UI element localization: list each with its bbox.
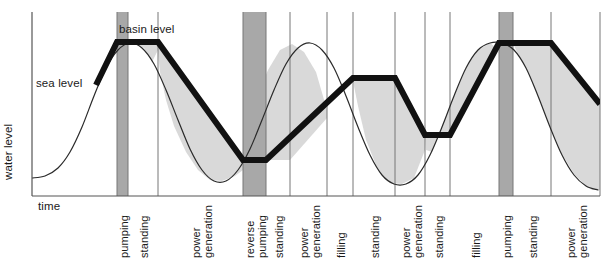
phase-label-4: reversepumping	[245, 215, 268, 258]
phase-label-5: standing	[274, 216, 286, 258]
phase-label-word: filling	[336, 232, 348, 258]
basin-level-annotation: basin level	[119, 23, 174, 35]
phase-band-reverse-pumping	[243, 12, 266, 196]
phase-label-3: powergeneration	[191, 205, 214, 258]
phase-label-word: filling	[471, 232, 483, 258]
phase-label-word: standing	[434, 216, 446, 258]
phase-label-word: pumping	[502, 215, 514, 258]
phase-label-word: pumping	[257, 215, 269, 258]
phase-label-word: reverse	[245, 215, 257, 258]
phase-label-word: generation	[412, 205, 424, 258]
phase-label-word: standing	[139, 216, 151, 258]
phase-label-8: standing	[370, 216, 382, 258]
phase-label-10: standing	[434, 216, 446, 258]
phase-label-word: standing	[528, 216, 540, 258]
tidal-power-plant-operation-diagram: water level time sea level basin level p…	[0, 0, 616, 276]
sea-level-annotation: sea level	[36, 77, 82, 89]
phase-label-9: powergeneration	[401, 205, 424, 258]
phase-label-word: generation	[311, 205, 323, 258]
phase-label-word: standing	[274, 216, 286, 258]
head-difference-shading	[117, 42, 600, 190]
x-axis-label: time	[38, 200, 60, 212]
phase-label-word: generation	[203, 205, 215, 258]
phase-label-word: power	[299, 205, 311, 258]
phase-label-word: standing	[370, 216, 382, 258]
phase-label-11: filling	[471, 232, 483, 258]
y-axis-label: water level	[2, 124, 14, 180]
phase-label-12: pumping	[502, 215, 514, 258]
phase-label-word: power	[566, 205, 578, 258]
phase-label-word: power	[191, 205, 203, 258]
phase-band-pumping-2	[499, 12, 513, 196]
phase-label-1: pumping	[119, 215, 131, 258]
phase-label-7: filling	[336, 232, 348, 258]
phase-label-word: power	[401, 205, 413, 258]
phase-label-2: standing	[139, 216, 151, 258]
phase-label-6: powergeneration	[299, 205, 322, 258]
phase-label-13: standing	[528, 216, 540, 258]
phase-label-word: generation	[578, 205, 590, 258]
phase-label-14: powergeneration	[566, 205, 589, 258]
phase-label-word: pumping	[119, 215, 131, 258]
